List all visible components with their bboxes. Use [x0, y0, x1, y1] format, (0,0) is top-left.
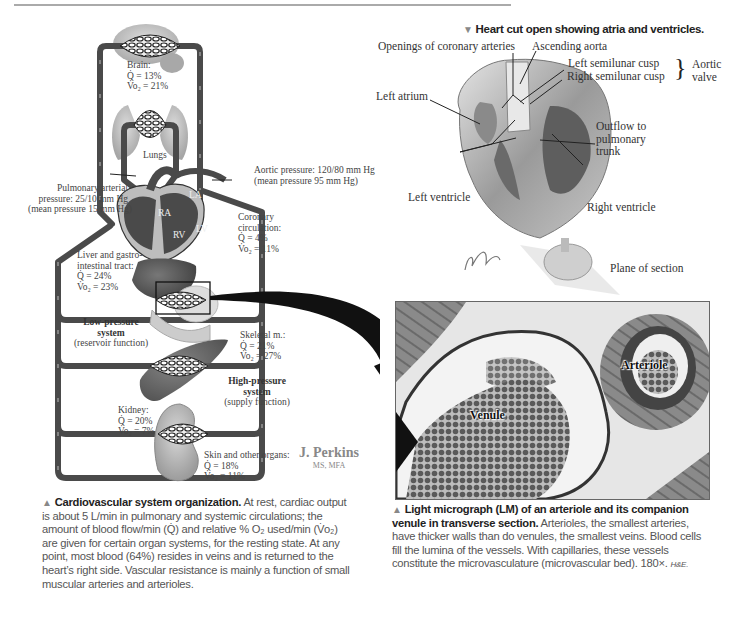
triangle-down-icon: ▼ — [463, 24, 473, 35]
micrograph-svg — [396, 302, 709, 499]
label-left-ventricle: Left ventricle — [408, 191, 470, 204]
kidney-label: Kidney: Q̇ = 20% V̇o₂ = 7% — [118, 405, 154, 437]
label-aortic-valve: Aortic valve — [692, 58, 721, 83]
pulmonary-pressure-line1: Pulmonary arterial — [28, 183, 128, 194]
cardiovascular-diagram: Brain: Q̇ = 13% V̇o₂ = 21% Lungs Aortic … — [0, 0, 380, 490]
triangle-up-icon: ▲ — [42, 497, 52, 508]
micrograph-image: Arteriole Venule — [395, 301, 710, 500]
aortic-valve-line1: Aortic — [692, 58, 721, 71]
circulation-diagram-svg — [0, 0, 380, 490]
skin-q: Q̇ = 18% — [204, 461, 290, 472]
liver-vo2: V̇o₂ = 23% — [77, 282, 142, 293]
high-pressure-label: High-pressure system (supply function) — [222, 376, 292, 408]
kidney-q: Q̇ = 20% — [118, 416, 154, 427]
kidney-title: Kidney: — [118, 405, 154, 416]
aortic-pressure-line1: Aortic pressure: 120/80 mm Hg — [254, 165, 375, 176]
heart-title-text: Heart cut open showing atria and ventric… — [476, 23, 704, 35]
aortic-pressure-label: Aortic pressure: 120/80 mm Hg (mean pres… — [254, 165, 375, 186]
coronary-label: Coronary circulation: Q̇ = 4% V̇o₂ = 11% — [238, 212, 281, 254]
heart-lv: LV — [196, 224, 208, 235]
cardiovascular-caption: ▲Cardiovascular system organization. At … — [42, 496, 352, 591]
coronary-line1: Coronary — [238, 212, 281, 223]
outflow-line2: pulmonary — [596, 133, 646, 146]
brain-label: Brain: Q̇ = 13% V̇o₂ = 21% — [127, 60, 168, 92]
heart-ra: RA — [158, 208, 171, 219]
kidney-vo2: V̇o₂ = 7% — [118, 426, 154, 437]
label-outflow-pulmonary: Outflow to pulmonary trunk — [596, 120, 646, 158]
low-pressure-line1: Low-pressure — [70, 317, 152, 328]
label-left-cusp: Left semilunar cusp — [568, 57, 659, 70]
aortic-pressure-line2: (mean pressure 95 mm Hg) — [254, 176, 375, 187]
pulmonary-pressure-line3: (mean pressure 15 mm Hg) — [28, 204, 128, 215]
low-pressure-line2: system — [70, 328, 152, 339]
pulmonary-pressure-line2: pressure: 25/10 mm Hg — [28, 194, 128, 205]
liver-line2: intestinal tract: — [77, 261, 142, 272]
brain-vo2: V̇o₂ = 21% — [127, 81, 168, 92]
liver-label: Liver and gastro- intestinal tract: Q̇ =… — [77, 250, 142, 292]
heart-rv: RV — [173, 230, 185, 241]
low-pressure-label: Low-pressure system (reservoir function) — [70, 317, 152, 349]
caption-body: At rest, cardiac output is about 5 L/min… — [42, 496, 350, 590]
lungs-label: Lungs — [143, 150, 167, 161]
aortic-valve-line2: valve — [692, 71, 721, 84]
label-left-atrium: Left atrium — [376, 90, 428, 103]
label-openings-coronary: Openings of coronary arteries — [378, 40, 515, 53]
coronary-vo2: V̇o₂ = 11% — [238, 244, 281, 255]
brain-q: Q̇ = 13% — [127, 71, 168, 82]
caption-title: Cardiovascular system organization. — [55, 496, 241, 508]
coronary-line2: circulation: — [238, 223, 281, 234]
heart-figure-title: ▼Heart cut open showing atria and ventri… — [463, 23, 704, 35]
skeletal-label: Skeletal m.: Q̇ = 21% V̇o₂ = 27% — [240, 330, 285, 362]
stain-label: H&E. — [670, 560, 688, 569]
outflow-line1: Outflow to — [596, 120, 646, 133]
low-pressure-line3: (reservoir function) — [70, 338, 152, 349]
heart-illustration: Openings of coronary arteries Ascending … — [380, 40, 735, 295]
artist-signature-perkins: J. Perkins MS, MFA — [294, 445, 364, 470]
coronary-q: Q̇ = 4% — [238, 233, 281, 244]
label-right-cusp: Right semilunar cusp — [567, 70, 665, 83]
pulmonary-pressure-label: Pulmonary arterial pressure: 25/10 mm Hg… — [28, 183, 128, 215]
micrograph-caption: ▲Light micrograph (LM) of an arteriole a… — [392, 503, 712, 572]
skeletal-q: Q̇ = 21% — [240, 341, 285, 352]
label-right-ventricle: Right ventricle — [587, 201, 656, 214]
heart-la: LA — [189, 190, 202, 201]
skeletal-vo2: V̇o₂ = 27% — [240, 351, 285, 362]
artist-credentials: MS, MFA — [294, 461, 364, 470]
artist-name: J. Perkins — [294, 445, 364, 461]
label-plane-of-section: Plane of section — [610, 262, 683, 275]
liver-q: Q̇ = 24% — [77, 271, 142, 282]
arteriole-label: Arteriole — [621, 358, 668, 373]
high-pressure-line1: High-pressure — [222, 376, 292, 387]
high-pressure-line2: system — [222, 387, 292, 398]
skin-vo2: V̇o₂ = 11% — [204, 471, 290, 482]
skin-title: Skin and other organs: — [204, 450, 290, 461]
outflow-line3: trunk — [596, 145, 646, 158]
triangle-up-icon: ▲ — [392, 504, 402, 515]
venule-label: Venule — [470, 408, 505, 423]
high-pressure-line3: (supply function) — [222, 397, 292, 408]
liver-line1: Liver and gastro- — [77, 250, 142, 261]
brain-title: Brain: — [127, 60, 168, 71]
skin-label: Skin and other organs: Q̇ = 18% V̇o₂ = 1… — [204, 450, 290, 482]
aortic-valve-brace: } — [674, 55, 686, 81]
skeletal-title: Skeletal m.: — [240, 330, 285, 341]
label-ascending-aorta: Ascending aorta — [532, 40, 607, 53]
